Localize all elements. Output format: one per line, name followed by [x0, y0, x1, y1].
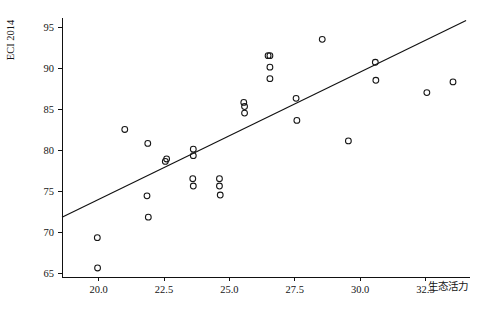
data-point: [424, 90, 430, 96]
axis-titles-group: ECI 2014 生态活力: [5, 19, 468, 292]
data-point: [217, 192, 223, 198]
trendline-group: [62, 20, 466, 217]
data-point: [267, 64, 273, 70]
data-point: [217, 183, 223, 189]
data-point: [293, 95, 299, 101]
x-tick-label: 27.5: [286, 284, 304, 295]
y-tick-label: 95: [44, 22, 55, 33]
data-point: [190, 176, 196, 182]
y-tick-label: 80: [44, 145, 55, 156]
y-tick-label: 65: [44, 268, 55, 279]
data-point: [450, 79, 456, 85]
regression-line: [62, 20, 466, 217]
y-tick-label: 90: [44, 63, 55, 74]
data-point: [242, 104, 248, 110]
data-point: [242, 110, 248, 116]
data-point: [190, 183, 196, 189]
y-tick-label: 70: [44, 227, 55, 238]
data-point: [294, 118, 300, 124]
data-point: [373, 77, 379, 83]
x-tick-label: 25.0: [220, 284, 238, 295]
x-tick-label: 30.0: [351, 284, 369, 295]
data-point: [95, 265, 101, 271]
data-point: [319, 36, 325, 42]
x-axis-title: 生态活力: [428, 280, 468, 292]
data-point: [122, 127, 128, 133]
data-point: [345, 138, 351, 144]
data-point: [217, 176, 223, 182]
tick-labels-group: 6570758085909520.022.525.027.530.032.5: [44, 22, 435, 295]
data-point: [145, 214, 151, 220]
x-tick-label: 20.0: [89, 284, 107, 295]
tick-marks-group: [58, 28, 426, 281]
data-point: [144, 193, 150, 199]
data-point: [145, 141, 151, 147]
data-point: [190, 146, 196, 152]
scatter-chart: 6570758085909520.022.525.027.530.032.5 E…: [0, 0, 486, 309]
x-tick-label: 22.5: [155, 284, 173, 295]
plot-area: 6570758085909520.022.525.027.530.032.5 E…: [0, 0, 486, 309]
data-points-group: [94, 36, 455, 270]
y-tick-label: 75: [44, 186, 55, 197]
y-tick-label: 85: [44, 104, 55, 115]
data-point: [267, 76, 273, 82]
data-point: [94, 235, 100, 241]
y-axis-title: ECI 2014: [5, 19, 16, 60]
